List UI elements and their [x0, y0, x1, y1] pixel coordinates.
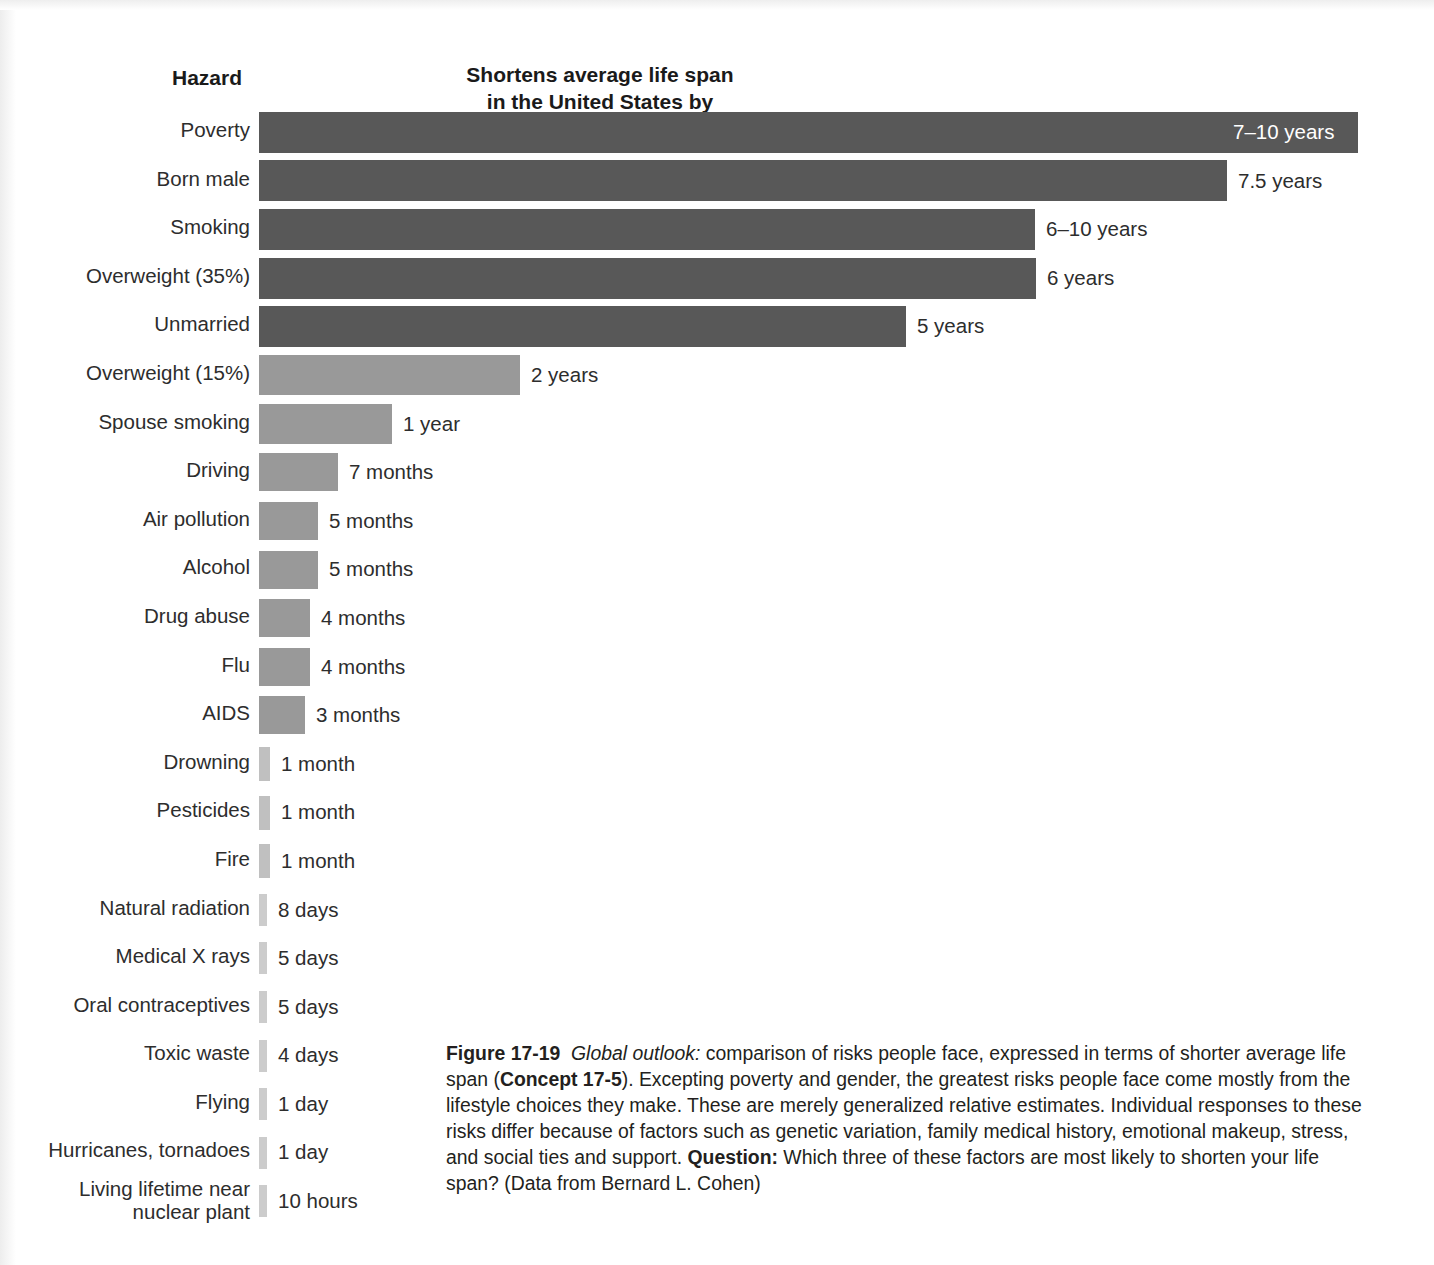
chart-bar	[259, 1185, 267, 1217]
chart-row-label: Born male	[0, 168, 250, 191]
chart-value-label: 6 years	[1047, 266, 1114, 290]
chart-bar	[259, 306, 906, 347]
chart-value-label: 1 month	[281, 849, 355, 873]
chart-row: Oral contraceptives5 days	[0, 983, 1434, 1032]
chart-row-label: Pesticides	[0, 799, 250, 822]
chart-row-label: Spouse smoking	[0, 411, 250, 434]
page-top-shadow	[0, 0, 1434, 10]
chart-row-label: Drowning	[0, 751, 250, 774]
chart-row: Flu4 months	[0, 643, 1434, 692]
chart-row-label: Smoking	[0, 216, 250, 239]
chart-row: Spouse smoking1 year	[0, 400, 1434, 449]
chart-bar	[259, 453, 338, 491]
chart-row: Smoking6–10 years	[0, 205, 1434, 254]
chart-row: Unmarried5 years	[0, 302, 1434, 351]
chart-value-label: 4 months	[321, 606, 405, 630]
chart-bar	[259, 894, 267, 926]
chart-row-label: AIDS	[0, 702, 250, 725]
chart-value-label: 5 months	[329, 557, 413, 581]
chart-row-label: Unmarried	[0, 313, 250, 336]
column-header-metric-line1: Shortens average life span	[440, 62, 760, 89]
chart-row-label: Toxic waste	[0, 1042, 250, 1065]
chart-bar	[259, 160, 1227, 201]
chart-value-label: 10 hours	[278, 1189, 358, 1213]
chart-row: Medical X rays5 days	[0, 934, 1434, 983]
chart-bar	[259, 696, 305, 734]
chart-value-label: 3 months	[316, 703, 400, 727]
column-header-hazard: Hazard	[100, 66, 314, 90]
chart-row-label: Hurricanes, tornadoes	[0, 1139, 250, 1162]
chart-row: Overweight (15%)2 years	[0, 351, 1434, 400]
chart-value-label: 7–10 years	[1233, 120, 1334, 144]
figure-caption: Figure 17-19 Global outlook: comparison …	[446, 1040, 1376, 1197]
caption-concept-link: Concept 17-5	[500, 1068, 622, 1090]
chart-row-label: Driving	[0, 459, 250, 482]
chart-row-label: Drug abuse	[0, 605, 250, 628]
chart-row: Alcohol5 months	[0, 545, 1434, 594]
chart-value-label: 1 day	[278, 1140, 328, 1164]
chart-bar	[259, 599, 310, 637]
chart-row-label: Natural radiation	[0, 897, 250, 920]
chart-value-label: 5 months	[329, 509, 413, 533]
chart-row-label: Flying	[0, 1091, 250, 1114]
chart-bar	[259, 502, 318, 540]
chart-row-label: Medical X rays	[0, 945, 250, 968]
chart-row: Born male7.5 years	[0, 157, 1434, 206]
chart-value-label: 5 days	[278, 946, 338, 970]
chart-bar	[259, 209, 1035, 250]
chart-value-label: 5 days	[278, 995, 338, 1019]
chart-row: Drowning1 month	[0, 740, 1434, 789]
chart-row-label: Air pollution	[0, 508, 250, 531]
chart-bar	[259, 796, 270, 830]
chart-bar	[259, 404, 392, 444]
chart-row-label: Overweight (15%)	[0, 362, 250, 385]
chart-bar	[259, 747, 270, 781]
chart-bar	[259, 942, 267, 974]
chart-bar	[259, 1088, 267, 1120]
caption-question-label: Question:	[687, 1146, 778, 1168]
caption-emphasis: Global outlook:	[571, 1042, 700, 1064]
chart-value-label: 7.5 years	[1238, 169, 1322, 193]
chart-value-label: 8 days	[278, 898, 338, 922]
chart-row-label: Fire	[0, 848, 250, 871]
chart-bar	[259, 1040, 267, 1072]
chart-value-label: 1 year	[403, 412, 460, 436]
chart-row: Pesticides1 month	[0, 788, 1434, 837]
chart-bar	[259, 648, 310, 686]
chart-row-label: Oral contraceptives	[0, 994, 250, 1017]
chart-value-label: 4 months	[321, 655, 405, 679]
chart-row: Drug abuse4 months	[0, 594, 1434, 643]
caption-figure-number: Figure 17-19	[446, 1042, 560, 1064]
caption-space-1	[560, 1042, 571, 1064]
chart-value-label: 2 years	[531, 363, 598, 387]
chart-row-label: Flu	[0, 654, 250, 677]
chart-row: AIDS3 months	[0, 691, 1434, 740]
chart-value-label: 4 days	[278, 1043, 338, 1067]
chart-row: Fire1 month	[0, 837, 1434, 886]
chart-value-label: 6–10 years	[1046, 217, 1147, 241]
chart-value-label: 7 months	[349, 460, 433, 484]
chart-row-label: Poverty	[0, 119, 250, 142]
chart-value-label: 1 day	[278, 1092, 328, 1116]
chart-row-label: Living lifetime near nuclear plant	[0, 1178, 250, 1224]
chart-row: Poverty7–10 years	[0, 108, 1434, 157]
chart-value-label: 5 years	[917, 314, 984, 338]
chart-value-label: 1 month	[281, 752, 355, 776]
chart-bar	[259, 1137, 267, 1169]
chart-bar	[259, 844, 270, 878]
chart-bar	[259, 551, 318, 589]
chart-bar	[259, 991, 267, 1023]
chart-row: Overweight (35%)6 years	[0, 254, 1434, 303]
chart-row: Natural radiation8 days	[0, 886, 1434, 935]
chart-bar	[259, 112, 1358, 153]
chart-bar	[259, 258, 1036, 299]
chart-bar	[259, 355, 520, 395]
chart-row-label: Alcohol	[0, 556, 250, 579]
chart-row: Air pollution5 months	[0, 497, 1434, 546]
chart-row: Driving7 months	[0, 448, 1434, 497]
chart-row-label: Overweight (35%)	[0, 265, 250, 288]
chart-value-label: 1 month	[281, 800, 355, 824]
